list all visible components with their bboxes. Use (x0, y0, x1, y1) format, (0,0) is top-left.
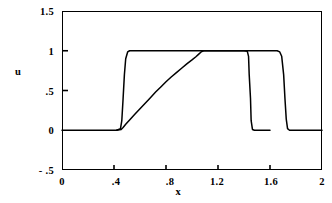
curve-square-wave (62, 51, 322, 131)
x-tick-label-1.2: 1.2 (195, 176, 239, 187)
x-tick-label-2: 2 (300, 176, 332, 187)
y-tick-label-neg0.5: - .5 (14, 165, 54, 176)
y-axis-title: u (10, 66, 26, 77)
y-tick-label-1: 1 (14, 46, 54, 57)
chart-figure: 1.5 1 .5 0 - .5 u 0 .4 .8 1.2 1.6 2 x (0, 0, 332, 203)
data-curves (62, 51, 322, 131)
axis-ticks (62, 51, 270, 170)
x-axis-title: x (170, 186, 186, 197)
x-tick-label-1.6: 1.6 (249, 176, 293, 187)
y-tick-label-0.5: .5 (14, 86, 54, 97)
x-tick-label-0: 0 (40, 176, 84, 187)
y-tick-label-0: 0 (14, 125, 54, 136)
curve-smeared-solution (117, 51, 270, 131)
x-tick-label-0.4: .4 (94, 176, 138, 187)
y-tick-label-1.5: 1.5 (14, 6, 54, 17)
